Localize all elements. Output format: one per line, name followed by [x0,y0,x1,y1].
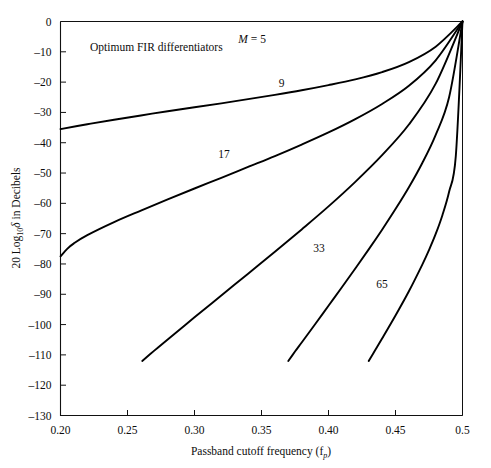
chart-canvas: 0.200.250.300.350.400.450.5 0–10–20–30–4… [0,0,491,468]
x-title-text: Passband cutoff frequency (f [191,445,323,458]
y-title-tail: in Decibels [10,167,22,222]
x-tick-label: 0.30 [184,424,204,436]
y-axis-title: 20 Log10δ in Decibels [10,167,25,269]
y-tick-label: –80 [33,258,52,270]
series-label: 65 [376,278,388,290]
plot-annotation: Optimum FIR differentiators [90,41,223,54]
y-tick-label: –60 [33,197,52,209]
x-tick-label: 0.5 [455,424,470,436]
y-tick-labels: 0–10–20–30–40–50–60–70–80–90–100–110–120… [28,16,52,422]
series-label-value: = 5 [248,33,266,45]
y-tick-label: –110 [28,349,52,361]
series-line [288,22,462,361]
y-tick-label: 0 [46,16,52,28]
x-title-tail: ) [327,445,331,458]
x-tick-label: 0.45 [385,424,405,436]
y-title-subscript: 10 [16,228,25,236]
y-tick-label: –70 [33,228,52,240]
figure-container: 0.200.250.300.350.400.450.5 0–10–20–30–4… [0,0,491,468]
y-tick-label: –120 [28,379,52,391]
x-tick-labels: 0.200.250.300.350.400.450.5 [50,424,470,436]
y-tick-label: –40 [33,137,52,149]
y-tick-label: –50 [33,167,52,179]
y-tick-label: –130 [28,410,52,422]
y-title-text: 20 Log [10,235,23,268]
x-tick-label: 0.20 [50,424,70,436]
series-label: 17 [218,148,230,160]
y-tick-label: –100 [28,319,52,331]
x-tick-label: 0.25 [117,424,137,436]
y-tick-label: –30 [33,106,52,118]
series-line [61,22,463,257]
x-tick-label: 0.40 [318,424,338,436]
chart-series-lines [61,22,463,361]
series-label: M = 5 [237,33,266,45]
y-tick-label: –20 [33,76,52,88]
series-label: 33 [313,242,325,254]
x-axis-title: Passband cutoff frequency (fp) [191,445,331,460]
series-label: 9 [279,77,285,89]
y-tick-label: –10 [33,46,52,58]
y-tick-label: –90 [33,288,52,300]
x-tick-label: 0.35 [251,424,271,436]
series-labels: M = 59173365 [218,33,388,290]
